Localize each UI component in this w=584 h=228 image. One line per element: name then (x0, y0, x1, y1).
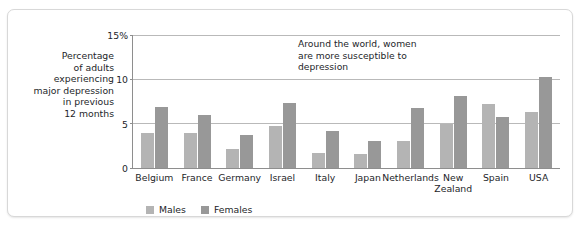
legend: Males Females (146, 204, 252, 215)
legend-label-males: Males (159, 204, 186, 215)
bar-males-italy (312, 153, 325, 168)
bar-females-new-zealand (454, 96, 467, 168)
bar-males-netherlands (397, 141, 410, 168)
y-axis-title: Percentage of adults experiencing major … (22, 50, 114, 120)
x-axis-label: Belgium (135, 173, 173, 184)
legend-item-females: Females (201, 204, 252, 215)
bar-males-usa (525, 112, 538, 168)
bar-group: France (176, 35, 219, 168)
bar-females-usa (539, 77, 552, 168)
chart-card: Percentage of adults experiencing major … (7, 9, 573, 217)
x-axis-label: New Zealand (434, 173, 472, 194)
bar-group: Germany (218, 35, 261, 168)
y-tick-label-10: 10 (116, 74, 128, 85)
y-tick-label-5: 5 (122, 118, 128, 129)
bar-males-new-zealand (440, 124, 453, 168)
x-axis-label: USA (529, 173, 548, 184)
x-axis-label: Japan (355, 173, 381, 184)
bar-females-italy (326, 131, 339, 168)
bar-females-japan (368, 141, 381, 168)
x-axis-label: Spain (483, 173, 509, 184)
x-axis-label: France (182, 173, 213, 184)
bar-group: USA (517, 35, 560, 168)
bar-males-japan (354, 154, 367, 168)
bar-females-spain (496, 117, 509, 168)
x-axis-label: Netherlands (382, 173, 439, 184)
legend-swatch-males-icon (146, 206, 154, 214)
bar-males-belgium (141, 133, 154, 168)
legend-label-females: Females (214, 204, 252, 215)
bar-group: Spain (475, 35, 518, 168)
y-tick-label-0: 0 (122, 163, 128, 174)
bar-females-belgium (155, 107, 168, 168)
bar-females-netherlands (411, 108, 424, 168)
chart-annotation: Around the world, women are more suscept… (298, 38, 478, 73)
x-axis-label: Israel (270, 173, 295, 184)
bar-group: Belgium (133, 35, 176, 168)
bar-males-germany (226, 149, 239, 169)
bar-males-israel (269, 126, 282, 168)
bar-females-israel (283, 103, 296, 168)
bar-females-germany (240, 135, 253, 168)
x-axis-label: Germany (218, 173, 261, 184)
bar-males-france (184, 133, 197, 168)
x-axis-label: Italy (315, 173, 335, 184)
bar-females-france (198, 115, 211, 168)
legend-item-males: Males (146, 204, 186, 215)
bar-males-spain (482, 104, 495, 168)
y-tick-label-15: 15% (107, 30, 128, 41)
legend-swatch-females-icon (201, 206, 209, 214)
